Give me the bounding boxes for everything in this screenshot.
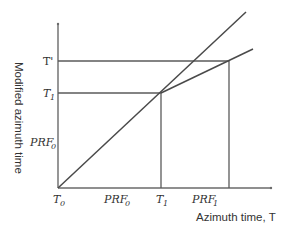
x-label-prf1: PRF 1 xyxy=(191,193,218,208)
y-axis-arrow-tip xyxy=(57,23,59,25)
svg-text:0: 0 xyxy=(125,199,130,208)
identity-line xyxy=(58,12,246,188)
x-label-prf0: PRF 0 xyxy=(103,193,130,208)
x-label-t1: T 1 xyxy=(156,193,168,208)
svg-text:0: 0 xyxy=(51,142,56,151)
svg-text:1: 1 xyxy=(163,199,168,208)
svg-text:1: 1 xyxy=(213,199,218,208)
azimuth-time-diagram: Modified azimuth time T' T 1 PRF 0 T 0 P… xyxy=(0,0,284,231)
svg-text:PRF: PRF xyxy=(103,193,128,206)
svg-text:PRF: PRF xyxy=(29,136,54,149)
y-label-t1: T 1 xyxy=(43,87,55,102)
x-axis-arrow-tip xyxy=(270,187,272,189)
y-label-t-prime: T' xyxy=(43,55,53,68)
svg-text:1: 1 xyxy=(50,93,55,102)
modified-line xyxy=(161,49,253,93)
x-label-t0: T 0 xyxy=(53,193,65,208)
svg-text:PRF: PRF xyxy=(191,193,216,206)
x-axis-title: Azimuth time, T xyxy=(196,211,276,223)
svg-text:0: 0 xyxy=(60,199,65,208)
y-axis-title: Modified azimuth time xyxy=(13,62,25,174)
y-label-prf0: PRF 0 xyxy=(29,136,56,151)
